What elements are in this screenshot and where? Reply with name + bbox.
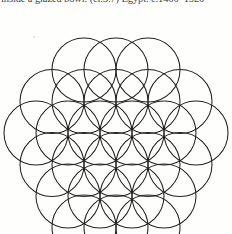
- circle-lattice-svg: [0, 14, 232, 234]
- caption-strip: inside a glazed bowl. (cl.3.7) Egypt. c.…: [0, 0, 232, 13]
- circle-group: [4, 38, 228, 234]
- paper-speck: [33, 36, 35, 38]
- caption-text: inside a glazed bowl. (cl.3.7) Egypt. c.…: [1, 0, 232, 5]
- plate-page: inside a glazed bowl. (cl.3.7) Egypt. c.…: [0, 0, 232, 234]
- flower-of-life-diagram: [0, 14, 232, 234]
